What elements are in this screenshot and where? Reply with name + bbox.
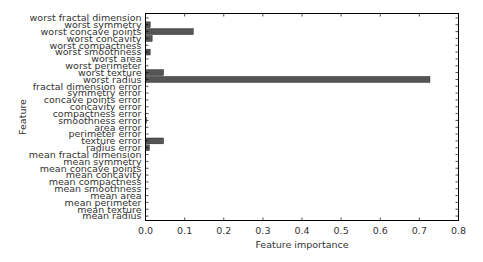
x-tick-label: 0.7 [412,225,427,236]
x-tick-label: 0.4 [294,225,309,236]
plot-frame [146,14,459,221]
x-tick-label: 0.0 [138,225,153,236]
y-axis-ticks: mean radiusmean texturemean perimetermea… [29,12,459,221]
x-tick-label: 0.6 [373,225,388,236]
x-axis-label: Feature importance [255,239,348,250]
x-tick-label: 0.2 [216,225,231,236]
x-axis-ticks: 0.00.10.20.30.40.50.60.70.8 [138,14,466,236]
x-tick-label: 0.1 [177,225,192,236]
bar-worst-radius [146,77,430,83]
y-tick-label: worst fractal dimension [30,12,142,23]
x-tick-label: 0.5 [334,225,349,236]
y-axis-label: Feature [17,99,28,135]
x-tick-label: 0.3 [255,225,270,236]
x-tick-label: 0.8 [451,225,466,236]
feature-importance-chart: mean radiusmean texturemean perimetermea… [0,0,483,262]
bars [146,22,430,151]
bar-worst-concave-points [146,29,194,35]
